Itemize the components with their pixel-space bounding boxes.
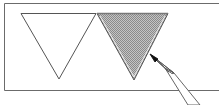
pencil-icon (150, 54, 200, 105)
outline-triangle (21, 14, 96, 80)
illustration (0, 0, 219, 105)
triangles-drawing (0, 0, 219, 105)
shaded-triangle (97, 14, 168, 81)
